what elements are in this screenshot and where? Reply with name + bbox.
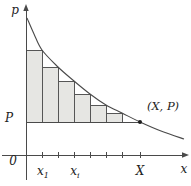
x1-subscript: 1 (44, 171, 49, 180)
x-axis-label: x (181, 163, 188, 175)
origin-label: 0 (9, 155, 17, 167)
figure-canvas: p P 0 x1 xi X x (X, P) (0, 0, 191, 186)
price-level-label: P (5, 112, 13, 124)
x1-base: x (37, 164, 44, 178)
inscribed-rectangle (75, 95, 91, 123)
figure-svg (0, 0, 191, 186)
point-coordinates-label: (X, P) (147, 101, 179, 113)
x-axis-arrowhead-icon (182, 152, 189, 157)
xi-tick-label: xi (70, 165, 79, 177)
xi-subscript: i (77, 171, 80, 180)
p-axis-label: p (11, 4, 19, 16)
x1-tick-label: x1 (37, 165, 49, 177)
y-axis-arrowhead-icon (23, 4, 28, 11)
inscribed-rectangle (59, 82, 75, 123)
inscribed-rectangle (43, 68, 59, 123)
inscribed-rectangle (91, 106, 107, 123)
xi-base: x (70, 164, 77, 178)
point-marker (138, 120, 142, 124)
inscribed-rectangle (27, 51, 43, 123)
capital-x-tick-label: X (136, 165, 145, 177)
inscribed-rectangle (107, 114, 123, 123)
